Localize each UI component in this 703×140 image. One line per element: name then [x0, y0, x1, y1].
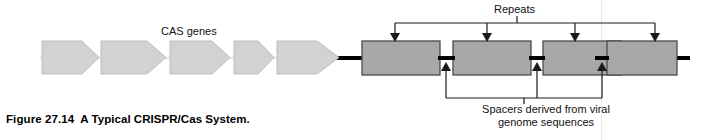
cas-gene-5	[277, 41, 339, 74]
figure-number: Figure 27.14	[6, 113, 74, 125]
cas-gene-2	[101, 41, 166, 74]
cas-gene-1	[42, 41, 99, 74]
figure-title: A Typical CRISPR/Cas System.	[80, 113, 250, 125]
cas-gene-3	[170, 41, 230, 74]
label-cas-genes: CAS genes	[161, 25, 217, 37]
repeats-leader	[395, 16, 655, 33]
label-repeats: Repeats	[494, 3, 535, 15]
repeat-group	[362, 41, 677, 75]
repeat-1	[362, 41, 440, 75]
figure-container: CAS genes Repeats Spacers derived from v…	[0, 0, 703, 140]
figure-caption: Figure 27.14A Typical CRISPR/Cas System.	[6, 112, 250, 126]
label-spacers-line1: Spacers derived from viral	[482, 103, 610, 115]
label-spacers-line2: genome sequences	[498, 116, 594, 128]
repeat-4	[607, 41, 677, 75]
label-spacers: Spacers derived from viral genome sequen…	[451, 103, 641, 128]
spacers-leader	[446, 71, 602, 104]
repeat-2	[453, 41, 531, 75]
cas-gene-4	[234, 41, 274, 74]
cas-gene-group	[42, 41, 339, 74]
